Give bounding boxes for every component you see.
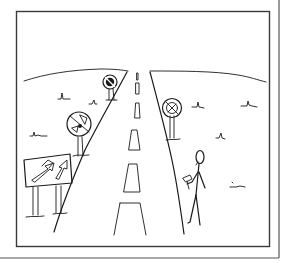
dash-2 [136, 83, 139, 94]
grass-tufts [30, 93, 257, 187]
road-right-edge [150, 72, 184, 234]
dash-4 [129, 130, 140, 150]
panel-frame [17, 12, 270, 247]
comic-canvas [0, 0, 285, 263]
dash-1 [137, 73, 138, 80]
page-edge [0, 0, 279, 258]
prohibition-sign-far-left [103, 75, 117, 100]
horizon-hills [24, 69, 266, 82]
dash-6 [114, 203, 146, 235]
road-left-edge [54, 72, 127, 232]
dash-3 [135, 103, 140, 118]
prohibition-sign-mid-left [67, 112, 91, 156]
arrow-billboard [24, 154, 72, 217]
stick-figure-with-hammer [183, 151, 205, 226]
center-dashes [114, 73, 146, 235]
dash-5 [124, 164, 140, 192]
